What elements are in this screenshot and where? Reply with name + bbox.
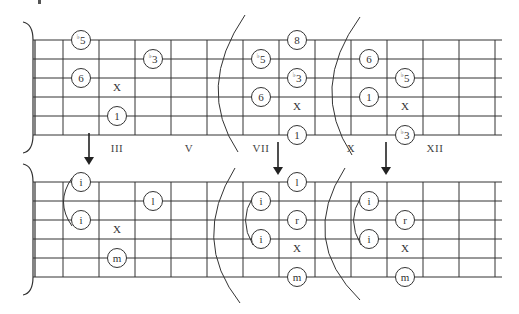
arrow-down-icon: [84, 157, 94, 165]
arrow-down-icon: [381, 167, 391, 175]
finger-dot: i: [251, 229, 271, 249]
finger-dot: i: [71, 210, 91, 230]
dot-label: 1: [294, 130, 300, 141]
position-arc: [332, 17, 360, 155]
muted-string-mark: X: [293, 242, 301, 254]
muted-string-mark: X: [401, 242, 409, 254]
dot-label: m: [113, 253, 122, 264]
dot-label: 3: [404, 130, 410, 141]
dot-label: i: [367, 196, 370, 207]
muted-string-mark: X: [401, 100, 409, 112]
dot-label: i: [79, 177, 82, 188]
dot-label: i: [259, 234, 262, 245]
scale-degree-dot: 6: [71, 68, 91, 88]
finger-dot: i: [359, 191, 379, 211]
dot-label: l: [151, 196, 154, 207]
position-arc: [325, 168, 360, 300]
finger-dot: m: [107, 248, 127, 268]
dot-label: 1: [114, 111, 120, 122]
finger-dot: i: [359, 229, 379, 249]
finger-dot: r: [395, 210, 415, 230]
scale-degree-dot: ♭5: [251, 49, 271, 69]
top-nut-bracket: [23, 22, 33, 153]
scale-degree-dot: ♭3: [287, 68, 307, 88]
dot-label: 6: [366, 54, 372, 65]
fret-position-label: III: [111, 142, 124, 154]
scale-degree-dot: 8: [287, 30, 307, 50]
flat-icon: ♭: [293, 72, 296, 79]
muted-string-mark: X: [293, 100, 301, 112]
fret-position-label: XII: [427, 142, 444, 154]
finger-dot: m: [395, 267, 415, 287]
finger-dot: l: [287, 172, 307, 192]
position-arc: [218, 15, 245, 152]
fret-position-label: V: [185, 142, 193, 154]
dot-label: 5: [260, 54, 266, 65]
scale-degree-dot: 1: [287, 125, 307, 145]
flat-icon: ♭: [149, 53, 152, 60]
scale-degree-dot: 6: [251, 87, 271, 107]
dot-label: 3: [296, 73, 302, 84]
flat-icon: ♭: [257, 53, 260, 60]
flat-icon: ♭: [401, 129, 404, 136]
dot-label: r: [295, 215, 299, 226]
finger-dot: l: [143, 191, 163, 211]
dot-label: 8: [294, 35, 300, 46]
muted-string-mark: X: [113, 223, 121, 235]
dot-label: 6: [258, 92, 264, 103]
flat-icon: ♭: [77, 34, 80, 41]
fret-position-label: VII: [253, 142, 270, 154]
flat-icon: ♭: [401, 72, 404, 79]
dot-label: i: [367, 234, 370, 245]
finger-dot: r: [287, 210, 307, 230]
finger-dot: m: [287, 267, 307, 287]
dot-label: 3: [152, 54, 158, 65]
dot-label: 5: [404, 73, 410, 84]
dot-label: i: [79, 215, 82, 226]
scale-degree-dot: ♭3: [143, 49, 163, 69]
muted-string-mark: X: [113, 81, 121, 93]
scale-degree-dot: 6: [359, 49, 379, 69]
dot-label: 5: [80, 35, 86, 46]
fretboard-figure: ♭5♭3618♭5♭3616♭51♭3XXXiilmlirimirimXXXII…: [0, 0, 519, 314]
dot-label: m: [401, 272, 410, 283]
dot-label: i: [259, 196, 262, 207]
finger-dot: i: [71, 172, 91, 192]
position-arc: [214, 168, 240, 303]
dot-label: 6: [78, 73, 84, 84]
scale-degree-dot: 1: [107, 106, 127, 126]
arrow-down-icon: [273, 167, 283, 175]
scale-degree-dot: ♭3: [395, 125, 415, 145]
dot-label: 1: [366, 92, 372, 103]
scale-degree-dot: ♭5: [71, 30, 91, 50]
dot-label: l: [295, 177, 298, 188]
dot-label: r: [403, 215, 407, 226]
bottom-nut-bracket: [23, 164, 33, 295]
fret-position-label: X: [347, 142, 355, 154]
dot-label: m: [293, 272, 302, 283]
scale-degree-dot: ♭5: [395, 68, 415, 88]
scale-degree-dot: 1: [359, 87, 379, 107]
finger-dot: i: [251, 191, 271, 211]
